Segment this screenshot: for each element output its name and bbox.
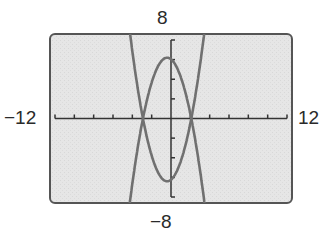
calculator-graph-screen: [0, 0, 336, 234]
